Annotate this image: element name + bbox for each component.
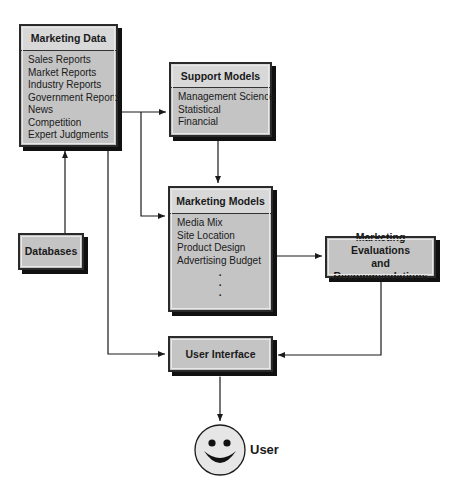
list-item: Expert Judgments bbox=[28, 129, 109, 142]
list-item: Site Location bbox=[177, 230, 264, 243]
list-item: Advertising Budget bbox=[177, 255, 264, 268]
node-body: Management Science Statistical Financial bbox=[171, 88, 270, 132]
node-marketing-data: Marketing Data Sales Reports Market Repo… bbox=[19, 24, 118, 147]
node-user-interface: User Interface bbox=[168, 336, 273, 372]
node-marketing-models: Marketing Models Media Mix Site Location… bbox=[168, 186, 273, 312]
node-support-models: Support Models Management Science Statis… bbox=[169, 62, 272, 137]
node-title-line1: Marketing Evaluations bbox=[327, 231, 434, 257]
node-title: Marketing Models bbox=[170, 188, 271, 214]
user-label: User bbox=[250, 442, 279, 457]
edge-marketing-data-to-marketing-models bbox=[141, 112, 165, 216]
node-title: Databases bbox=[25, 245, 78, 258]
list-item: Market Reports bbox=[28, 67, 109, 80]
list-item: Government Reports bbox=[28, 92, 109, 105]
list-item: News bbox=[28, 104, 109, 117]
node-title-line2: and Recommendations bbox=[327, 257, 434, 283]
list-item: Management Science bbox=[178, 91, 263, 104]
ellipsis-dot: · bbox=[177, 291, 264, 301]
node-body: Sales Reports Market Reports Industry Re… bbox=[21, 51, 116, 145]
list-item: Media Mix bbox=[177, 217, 264, 230]
node-title: Support Models bbox=[171, 64, 270, 88]
list-item: Financial bbox=[178, 116, 263, 129]
smiley-face-icon bbox=[193, 423, 247, 477]
node-title: User Interface bbox=[185, 348, 255, 361]
list-item: Product Design bbox=[177, 242, 264, 255]
node-title: Marketing Evaluations and Recommendation… bbox=[327, 231, 434, 283]
list-item: Competition bbox=[28, 117, 109, 130]
node-body: Media Mix Site Location Product Design A… bbox=[170, 214, 271, 304]
edge-evaluations-to-user-interface bbox=[278, 281, 381, 355]
node-databases: Databases bbox=[18, 233, 84, 270]
node-marketing-evaluations: Marketing Evaluations and Recommendation… bbox=[325, 236, 436, 278]
list-item: Industry Reports bbox=[28, 79, 109, 92]
list-item: Sales Reports bbox=[28, 54, 109, 67]
edge-marketing-data-to-user-interface bbox=[108, 150, 165, 354]
list-item: Statistical bbox=[178, 104, 263, 117]
node-title: Marketing Data bbox=[21, 26, 116, 51]
